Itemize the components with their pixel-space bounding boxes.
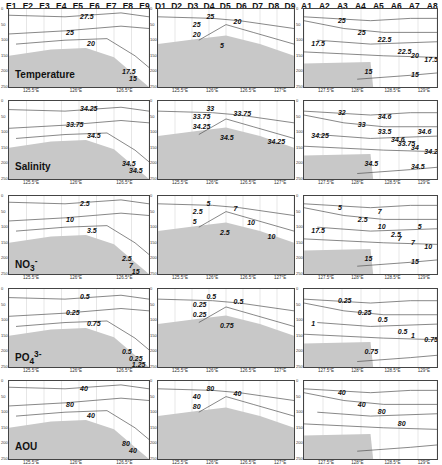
y-tick: 0 — [296, 378, 298, 383]
contour-label: 1 — [311, 320, 315, 327]
variable-label: NO3- — [15, 256, 37, 273]
y-tick: 150 — [150, 425, 157, 430]
y-tick: 0 — [1, 286, 3, 291]
y-tick: 100 — [1, 37, 8, 42]
x-tick: 128°E — [351, 88, 363, 93]
contour-label: 22.5 — [398, 48, 412, 55]
contour-label: 34.25 — [424, 148, 438, 155]
y-tick: 250 — [296, 176, 303, 181]
y-tick: 150 — [296, 145, 303, 150]
contour-label: 17.5 — [311, 40, 325, 47]
y-tick: 200 — [1, 440, 8, 445]
section-panel-salinity-a: 323333.533.753434.2534.2534.534.534.634.… — [303, 100, 438, 180]
y-tick: 50 — [150, 209, 154, 214]
section-panel-temperature-d: 252520205 — [157, 8, 295, 88]
x-tick: 126.5°E — [240, 460, 256, 465]
y-tick: 50 — [150, 22, 154, 27]
y-tick: 0 — [150, 286, 152, 291]
contour-label: 25 — [66, 29, 74, 36]
contour-label: 5 — [338, 204, 342, 211]
section-panel-salinity-e: 34.2533.7534.534.534.5Salinity — [8, 100, 150, 180]
x-tick: 126.5°E — [116, 180, 132, 185]
contour-label: 0.25 — [66, 309, 80, 316]
section-panel-temperature-e: 27.5252017.515Temperature — [8, 8, 150, 88]
contour-label: 5 — [418, 223, 422, 230]
y-tick: 0 — [150, 98, 152, 103]
contour-label: 34.5 — [122, 160, 136, 167]
contour-label: 22.5 — [378, 36, 392, 43]
y-tick: 150 — [150, 145, 157, 150]
y-tick: 200 — [150, 160, 157, 165]
section-panel-no3-e: 2.5103.52.5715NO3- — [8, 195, 150, 275]
x-tick: 125.5°E — [172, 180, 188, 185]
x-tick: 129°E — [418, 368, 430, 373]
x-tick: 128.5°E — [385, 368, 401, 373]
contour-label: 34.25 — [80, 105, 98, 112]
y-tick: 100 — [296, 317, 303, 322]
y-tick: 250 — [296, 84, 303, 89]
x-tick: 126°E — [206, 180, 218, 185]
contour-label: 32 — [338, 109, 346, 116]
contour-label: 0.25 — [338, 297, 352, 304]
section-panel-no3-a: 52.510771017.515152.557 — [303, 195, 438, 275]
contour-label: 34.5 — [365, 160, 379, 167]
y-tick: 200 — [296, 255, 303, 260]
contour-label: 40 — [234, 390, 242, 397]
contour-label: 34.5 — [87, 132, 101, 139]
contour-label: 17.5 — [424, 56, 438, 63]
x-tick: 125.5°E — [23, 275, 39, 280]
x-tick: 128.5°E — [385, 460, 401, 465]
x-tick: 128°E — [351, 275, 363, 280]
contour-label: 1.25 — [132, 361, 146, 368]
x-tick: 128°E — [351, 180, 363, 185]
contour-label: 40 — [338, 389, 346, 396]
x-tick: 126°E — [206, 275, 218, 280]
x-tick: 128.5°E — [385, 180, 401, 185]
y-tick: 250 — [1, 84, 8, 89]
contour-label: 0.75 — [365, 348, 379, 355]
y-tick: 150 — [296, 425, 303, 430]
x-tick: 125.5°E — [23, 368, 39, 373]
contour-label: 34.25 — [311, 132, 329, 139]
contour-label: 25 — [338, 17, 346, 24]
variable-label: Temperature — [15, 69, 75, 80]
y-tick: 100 — [296, 224, 303, 229]
x-tick: 126°E — [70, 460, 82, 465]
contour-label: 33 — [206, 105, 214, 112]
x-tick: 126°E — [206, 368, 218, 373]
x-tick: 127°E — [274, 275, 286, 280]
y-tick: 250 — [296, 456, 303, 461]
y-tick: 0 — [1, 193, 3, 198]
variable-label: PO43- — [15, 349, 42, 366]
y-tick: 50 — [150, 114, 154, 119]
y-tick: 100 — [1, 409, 8, 414]
contour-label: 5 — [193, 218, 197, 225]
contour-label: 34.6 — [391, 136, 405, 143]
contour-label: 17.5 — [122, 68, 136, 75]
contour-label: 15 — [411, 258, 419, 265]
contour-label: 10 — [268, 233, 276, 240]
y-tick: 250 — [150, 176, 157, 181]
contour-label: 0.25 — [193, 311, 207, 318]
y-tick: 200 — [1, 255, 8, 260]
x-tick: 126.5°E — [116, 368, 132, 373]
y-tick: 50 — [296, 302, 300, 307]
contour-label: 40 — [87, 412, 95, 419]
contour-label: 33 — [358, 121, 366, 128]
y-tick: 250 — [150, 271, 157, 276]
y-tick: 200 — [150, 440, 157, 445]
x-tick: 126°E — [70, 88, 82, 93]
contour-label: 5 — [220, 42, 224, 49]
x-tick: 129°E — [418, 275, 430, 280]
contour-label: 0.25 — [358, 309, 372, 316]
y-tick: 200 — [296, 68, 303, 73]
y-tick: 150 — [296, 53, 303, 58]
section-panel-po43-d: 0.50.250.50.250.75 — [157, 288, 295, 368]
contour-label: 80 — [206, 385, 214, 392]
contour-label: 0.75 — [87, 320, 101, 327]
contour-label: 15 — [365, 68, 373, 75]
x-tick: 127°E — [274, 368, 286, 373]
y-tick: 0 — [150, 378, 152, 383]
contour-label: 34.5 — [220, 134, 234, 141]
x-tick: 126.5°E — [240, 275, 256, 280]
